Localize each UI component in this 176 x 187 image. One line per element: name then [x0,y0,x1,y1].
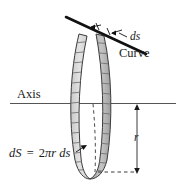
hidden-center-dashed-line [93,104,95,172]
ds-label-leader [119,33,127,37]
formula-arc: ds [59,146,70,160]
axis-label: Axis [17,88,41,101]
formula-equals: = [25,146,36,160]
ds-label: ds [130,31,140,43]
figure-surface-of-revolution: Axis Curve ds r dS = 2πrds [0,0,176,187]
band-right-wall [82,34,120,179]
radius-label: r [134,132,138,144]
surface-element-formula: dS = 2πrds [9,147,70,160]
formula-radius: r [51,146,56,160]
curve-label: Curve [119,47,150,60]
formula-lhs: dS [9,146,22,160]
radius-arrow-top [134,104,140,110]
radius-arrow-bottom [134,168,140,174]
